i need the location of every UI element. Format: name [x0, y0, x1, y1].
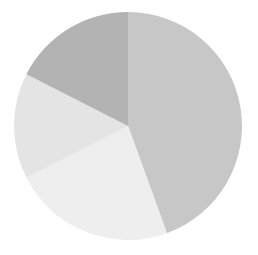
pie-slices-group: Slice 1 44.4%Slice 2 23.1%Slice 3 15.0%S…: [14, 12, 242, 240]
pie-chart-svg: Slice 1 44.4%Slice 2 23.1%Slice 3 15.0%S…: [0, 0, 258, 255]
pie-chart-figure: Slice 1 44.4%Slice 2 23.1%Slice 3 15.0%S…: [0, 0, 258, 255]
